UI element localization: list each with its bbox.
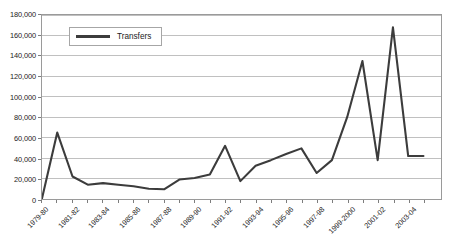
y-axis-label: 180,000	[10, 10, 36, 19]
legend-line-swatch-icon	[76, 35, 110, 38]
x-axis-label: 1989-90	[179, 205, 204, 230]
x-axis-tick	[302, 200, 303, 203]
x-axis-tick	[424, 200, 425, 203]
x-axis-tick	[41, 200, 42, 203]
x-axis-label: 1983-84	[87, 205, 112, 230]
series-line-transfers	[42, 27, 423, 198]
x-axis-tick	[286, 200, 287, 203]
x-axis-label: 1995-96	[271, 205, 296, 230]
x-axis-tick	[378, 200, 379, 203]
x-axis-tick	[256, 200, 257, 203]
y-axis-label: 100,000	[10, 92, 36, 101]
x-axis-label: 2003-04	[393, 205, 418, 230]
x-axis-label: 1999-2000	[326, 205, 357, 236]
y-axis-label: 0	[32, 196, 36, 205]
x-axis-tick	[271, 200, 272, 203]
x-axis-label: 1979-80	[25, 205, 50, 230]
x-axis-tick	[210, 200, 211, 203]
x-axis-label: 2001-02	[363, 205, 388, 230]
y-axis: 020,00040,00060,00080,000100,000120,0001…	[0, 14, 41, 200]
x-axis-tick	[133, 200, 134, 203]
x-axis-tick	[363, 200, 364, 203]
x-axis-label: 1993-94	[240, 205, 265, 230]
x-axis-tick	[348, 200, 349, 203]
x-axis-label: 1991-92	[209, 205, 234, 230]
x-axis-tick	[148, 200, 149, 203]
x-axis-tick	[409, 200, 410, 203]
chart-legend: Transfers	[69, 27, 162, 46]
y-axis-label: 160,000	[10, 30, 36, 39]
x-axis-tick	[240, 200, 241, 203]
y-axis-label: 20,000	[14, 175, 36, 184]
x-axis-label: 1981-82	[56, 205, 81, 230]
x-axis-label: 1985-86	[117, 205, 142, 230]
transfers-line-chart: 020,00040,00060,00080,000100,000120,0001…	[0, 0, 455, 239]
x-axis-tick	[225, 200, 226, 203]
x-axis-tick	[102, 200, 103, 203]
y-axis-label: 80,000	[14, 113, 36, 122]
y-axis-label: 60,000	[14, 134, 36, 143]
x-axis-tick	[72, 200, 73, 203]
x-axis-tick	[194, 200, 195, 203]
x-axis-tick	[394, 200, 395, 203]
x-axis-tick	[332, 200, 333, 203]
y-axis-label: 120,000	[10, 72, 36, 81]
x-axis-tick	[164, 200, 165, 203]
x-axis-tick	[317, 200, 318, 203]
x-axis-label: 1997-98	[301, 205, 326, 230]
x-axis-tick	[56, 200, 57, 203]
x-axis: 1979-801981-821983-841985-861987-881989-…	[41, 200, 442, 239]
x-axis-tick	[179, 200, 180, 203]
y-axis-label: 140,000	[10, 51, 36, 60]
x-axis-tick	[118, 200, 119, 203]
y-axis-label: 40,000	[14, 154, 36, 163]
x-axis-label: 1987-88	[148, 205, 173, 230]
legend-label-transfers: Transfers	[117, 32, 151, 41]
x-axis-tick	[87, 200, 88, 203]
